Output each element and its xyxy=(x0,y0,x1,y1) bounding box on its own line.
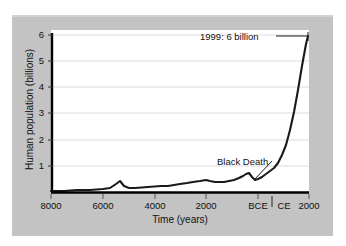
x-tick-marks xyxy=(51,194,309,199)
x-tick-label-bce: BCE xyxy=(244,200,272,211)
x-tick-label-8000-bce: 8000 xyxy=(31,200,71,211)
peak-annotation-label: 1999: 6 billion xyxy=(200,31,259,42)
gridlines xyxy=(51,35,309,166)
y-tick-label-6: 6 xyxy=(24,29,44,40)
x-tick-label-4000-bce: 4000 xyxy=(135,200,175,211)
chart-figure: 1 2 3 4 5 6 8000 6000 4000 2000 BCE CE 2… xyxy=(0,0,346,246)
peak-annotation-leader xyxy=(276,32,308,41)
x-tick-label-2000-ce: 2000 xyxy=(289,200,329,211)
black-death-annotation-label: Black Death xyxy=(217,156,268,167)
y-axis-title: Human population (billions) xyxy=(24,45,35,175)
x-tick-label-6000-bce: 6000 xyxy=(83,200,123,211)
x-tick-label-2000-bce: 2000 xyxy=(186,200,226,211)
x-axis-title: Time (years) xyxy=(51,214,309,225)
population-line xyxy=(51,36,308,191)
